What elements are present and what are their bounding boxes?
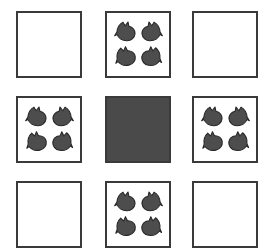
shape-group (18, 98, 80, 161)
bird-silhouette-icon (138, 19, 164, 45)
bird-silhouette-icon (49, 104, 75, 130)
bird-silhouette-icon (112, 215, 138, 241)
bird-silhouette-icon (49, 130, 75, 156)
bird-silhouette-icon (138, 45, 164, 71)
shape-group (107, 183, 169, 246)
matrix-cell-r3c2[interactable] (105, 181, 171, 248)
shape-group (194, 98, 256, 161)
matrix-cell-r2c3[interactable] (192, 96, 258, 163)
bird-silhouette-icon (112, 189, 138, 215)
matrix-cell-r3c3[interactable] (192, 181, 258, 248)
bird-silhouette-icon (138, 215, 164, 241)
bird-silhouette-icon (225, 130, 251, 156)
shape-group (107, 13, 169, 76)
bird-silhouette-icon (112, 45, 138, 71)
matrix-cell-r1c1[interactable] (16, 11, 82, 78)
matrix-cell-r2c2-solid[interactable] (105, 96, 171, 163)
matrix-cell-r1c3[interactable] (192, 11, 258, 78)
bird-silhouette-icon (199, 130, 225, 156)
bird-silhouette-icon (112, 19, 138, 45)
bird-silhouette-icon (23, 130, 49, 156)
matrix-cell-r1c2[interactable] (105, 11, 171, 78)
bird-silhouette-icon (225, 104, 251, 130)
matrix-cell-r3c1[interactable] (16, 181, 82, 248)
bird-silhouette-icon (199, 104, 225, 130)
bird-silhouette-icon (138, 189, 164, 215)
matrix-cell-r2c1[interactable] (16, 96, 82, 163)
bird-silhouette-icon (23, 104, 49, 130)
